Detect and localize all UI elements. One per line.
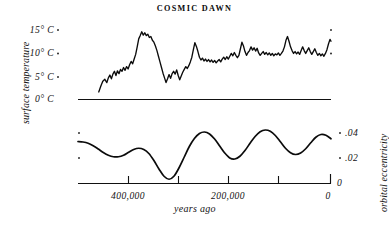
eccentricity-axis-tick-dots: [78, 132, 341, 159]
chart-figure: COSMIC DAWN surface temperature orbital …: [0, 0, 389, 225]
temperature-series-line: [99, 32, 331, 92]
temperature-axis-tick-dots: [57, 29, 332, 78]
eccentricity-series-line: [78, 130, 331, 179]
plot-area: [0, 0, 389, 225]
x-axis-tick-marks: [129, 176, 279, 184]
